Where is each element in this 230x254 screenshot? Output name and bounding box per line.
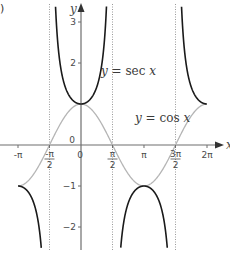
x-axis-label: x: [226, 138, 230, 152]
sec-curve-branch: [182, 7, 207, 104]
y-tick-label: −2: [63, 222, 76, 232]
x-tick-label: -π: [14, 150, 23, 160]
x-tick-label: 2: [173, 160, 179, 170]
panel-label: ): [0, 2, 4, 15]
y-axis-label: y: [69, 2, 77, 16]
sec-curve-branch: [121, 186, 168, 248]
y-tick-label: −1: [63, 181, 76, 191]
sec-cos-graph: ) xy -π-π20π2π3π22π032−1−2 y = sec xy = …: [0, 0, 230, 254]
x-tick-label: 0: [77, 150, 83, 160]
y-axis-arrow-icon: [78, 3, 85, 12]
asymptote-lines: [49, 4, 175, 250]
cos-curve-label: y = cos x: [134, 111, 190, 125]
axes: xy: [0, 2, 230, 250]
x-tick-label: -π: [45, 149, 54, 159]
sec-curve-label: y = sec x: [100, 64, 156, 78]
x-tick-label: π: [141, 150, 147, 160]
y-tick-label: 3: [70, 17, 76, 27]
y-tick-label: 2: [70, 58, 76, 68]
x-tick-label: 2: [110, 160, 116, 170]
x-axis-arrow-icon: [215, 142, 224, 149]
x-tick-label: 2: [47, 160, 53, 170]
curve-labels: y = sec xy = cos x: [100, 64, 190, 125]
x-tick-label: 3π: [170, 149, 182, 159]
x-tick-label: 2π: [201, 150, 213, 160]
origin-label: 0: [69, 135, 75, 145]
x-tick-label: π: [110, 149, 116, 159]
sec-curve-branch: [18, 186, 41, 248]
